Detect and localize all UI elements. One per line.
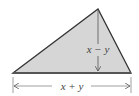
triangle-shape xyxy=(13,9,131,73)
triangle-diagram: x − y x + y xyxy=(0,0,139,96)
base-label: x + y xyxy=(60,80,84,92)
height-label: x − y xyxy=(86,43,110,55)
